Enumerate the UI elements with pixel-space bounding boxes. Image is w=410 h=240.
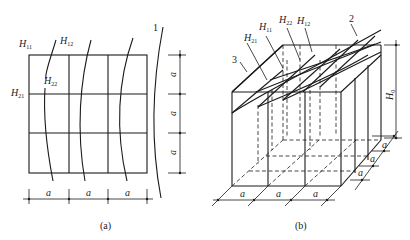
- dim-depth-3: a: [358, 167, 363, 178]
- bottom-dimension: a a a: [23, 187, 153, 204]
- diagram-canvas: H11 H12 H22 H21 1 a a a: [0, 0, 410, 240]
- dim-bottom-1: a: [46, 187, 51, 198]
- label-h21: H21: [10, 87, 24, 99]
- label-h0: H0: [384, 90, 396, 101]
- caption-a: (a): [100, 220, 111, 232]
- bottom-dimension-b: a a a: [212, 186, 341, 206]
- hidden-lines: [232, 45, 381, 186]
- isolines: [44, 27, 163, 198]
- dim-right-2: a: [167, 111, 178, 116]
- h0-dimension: H0: [384, 40, 402, 139]
- dim-bottom-2: a: [86, 187, 91, 198]
- callout-3: 3: [232, 54, 237, 65]
- label-h21-b: H21: [243, 32, 257, 44]
- dim-bottom-3: a: [125, 187, 130, 198]
- label-h11: H11: [18, 38, 32, 50]
- dim-depth-1: a: [382, 139, 387, 150]
- right-dimension: a a a: [167, 50, 186, 174]
- figure-b: H21 H11 H22 H12 2 3 H0 a a a: [212, 13, 402, 232]
- label-h12-b: H12: [296, 15, 310, 27]
- figure-a: H11 H12 H22 H21 1 a a a: [10, 22, 186, 232]
- dim-right-3: a: [167, 150, 178, 155]
- label-h22: H22: [43, 75, 57, 87]
- caption-b: (b): [295, 220, 307, 232]
- box-outline: [232, 45, 381, 186]
- dim-bottom-b-2: a: [276, 188, 281, 199]
- dim-bottom-b-3: a: [313, 188, 318, 199]
- label-h22-b: H22: [278, 14, 292, 26]
- dim-depth-2: a: [370, 153, 375, 164]
- leader-lines: [240, 24, 357, 80]
- label-h11-b: H11: [258, 21, 272, 33]
- dim-bottom-b-1: a: [240, 188, 245, 199]
- label-h12: H12: [59, 35, 73, 47]
- dim-right-1: a: [167, 72, 178, 77]
- callout-2: 2: [349, 13, 354, 24]
- callout-1: 1: [153, 22, 158, 33]
